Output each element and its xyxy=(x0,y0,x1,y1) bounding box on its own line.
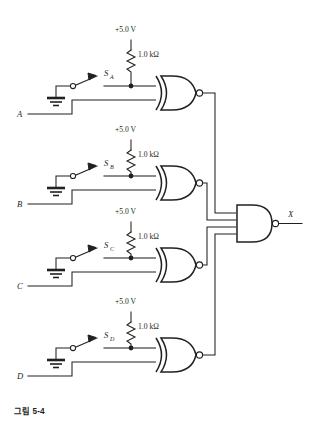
ground-symbol-3 xyxy=(47,270,65,278)
figure-container: 1.0 kΩ +5.0 V A xyxy=(0,0,312,435)
switch-2-arrow xyxy=(88,163,96,170)
input-D-wire xyxy=(28,362,158,376)
svg-text:C: C xyxy=(110,246,115,252)
ground-3-lead xyxy=(56,258,70,270)
gate-1-output-wire xyxy=(203,93,236,213)
input-A-wire xyxy=(28,100,158,114)
gate-3-output-wire xyxy=(203,227,236,265)
input-C-label: C xyxy=(17,281,23,291)
svg-text:S: S xyxy=(104,240,109,250)
supply-4-label: +5.0 V xyxy=(115,297,137,306)
supply-1-label: +5.0 V xyxy=(115,25,137,34)
ground-1-lead xyxy=(56,86,70,98)
input-D-label: D xyxy=(16,371,24,381)
gate-xnor-3 xyxy=(156,248,203,282)
switch-3-terminal[interactable] xyxy=(70,255,75,260)
switch-1-label: S A xyxy=(104,68,114,80)
stage-1-group: 1.0 kΩ +5.0 V A xyxy=(16,25,236,213)
resistor-4 xyxy=(127,322,135,348)
resistor-2-label: 1.0 kΩ xyxy=(138,150,159,159)
figure-caption: 그림 5-4 xyxy=(14,404,45,416)
input-B-wire xyxy=(28,190,158,204)
resistor-1-label: 1.0 kΩ xyxy=(138,50,159,59)
resistor-3 xyxy=(127,232,135,258)
supply-3-label: +5.0 V xyxy=(115,207,137,216)
input-C-wire xyxy=(28,272,158,286)
ground-symbol-2 xyxy=(47,188,65,196)
switch-2-label: S B xyxy=(104,158,114,170)
svg-text:D: D xyxy=(109,336,115,342)
resistor-3-label: 1.0 kΩ xyxy=(138,232,159,241)
svg-text:S: S xyxy=(104,330,109,340)
switch-4-terminal[interactable] xyxy=(70,345,75,350)
gate-xnor-4 xyxy=(156,338,203,372)
switch-1-terminal[interactable] xyxy=(70,83,75,88)
input-B-label: B xyxy=(17,199,23,209)
gate-xnor-1 xyxy=(156,76,203,110)
gate-2-output-wire xyxy=(203,183,236,220)
ground-symbol-1 xyxy=(47,98,65,106)
output-label: X xyxy=(287,209,294,219)
input-A-label: A xyxy=(16,109,23,119)
stage-4-group: 1.0 kΩ +5.0 V D S D xyxy=(16,234,236,381)
switch-4-arrow xyxy=(88,335,96,342)
resistor-4-label: 1.0 kΩ xyxy=(138,322,159,331)
circuit-diagram: 1.0 kΩ +5.0 V A xyxy=(0,0,312,435)
supply-2-label: +5.0 V xyxy=(115,125,137,134)
ground-4-lead xyxy=(56,348,70,360)
svg-text:A: A xyxy=(109,74,114,80)
switch-3-label: S C xyxy=(104,240,115,252)
resistor-2 xyxy=(127,150,135,176)
ground-symbol-4 xyxy=(47,360,65,368)
svg-text:S: S xyxy=(104,158,109,168)
stage-3-group: 1.0 kΩ +5.0 V C S C xyxy=(17,207,236,291)
gate-4-output-wire xyxy=(203,234,236,355)
stage-2-group: 1.0 kΩ +5.0 V B S B xyxy=(17,125,236,220)
svg-text:S: S xyxy=(104,68,109,78)
switch-4-label: S D xyxy=(104,330,115,342)
switch-2-terminal[interactable] xyxy=(70,173,75,178)
svg-text:B: B xyxy=(110,164,114,170)
gate-xnor-2 xyxy=(156,166,203,200)
ground-2-lead xyxy=(56,176,70,188)
switch-3-arrow xyxy=(88,245,96,252)
resistor-1 xyxy=(127,50,135,86)
switch-1-arrow xyxy=(88,73,96,80)
